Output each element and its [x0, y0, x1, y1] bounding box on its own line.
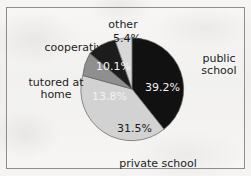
- pie-value-public-school: 39.2%: [145, 81, 180, 94]
- pie-label-cooperative: cooperative: [35, 42, 119, 54]
- pie-label-tutored-at-home: tutored at home: [21, 77, 91, 101]
- pie-label-public-school: public school: [193, 53, 245, 77]
- chart-title-cropped: [74, 0, 178, 5]
- pie-value-tutored-at-home: 13.8%: [92, 90, 127, 103]
- pie-label-other: other: [99, 19, 147, 31]
- pie-value-private-school: 31.5%: [117, 122, 152, 135]
- pie-chart-screenshot: other cooperative tutored at home public…: [0, 0, 251, 176]
- pie-plot-area: other cooperative tutored at home public…: [7, 8, 244, 168]
- pie-value-cooperative: 10.1%: [96, 60, 131, 73]
- pie-label-private-school: private school: [111, 158, 205, 170]
- pie-value-other: 5.4%: [113, 32, 141, 45]
- chart-frame: other cooperative tutored at home public…: [6, 7, 245, 169]
